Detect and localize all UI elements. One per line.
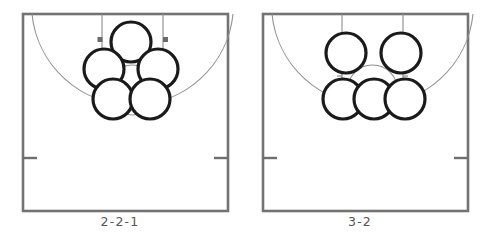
player-marker[interactable]: [381, 33, 421, 73]
court-diagram-left: [0, 0, 240, 215]
player-marker[interactable]: [93, 79, 133, 119]
figure-canvas: 2-2-1: [0, 0, 480, 248]
player-marker[interactable]: [385, 79, 425, 119]
court-diagram-right: [240, 0, 480, 215]
player-marker[interactable]: [130, 79, 170, 119]
formation-panel-right: 3-2: [240, 0, 480, 248]
formation-label-right: 3-2: [240, 214, 480, 229]
lane-block-right-icon: [163, 37, 168, 42]
formation-panel-left: 2-2-1: [0, 0, 240, 248]
lane-block-left-icon: [98, 37, 103, 42]
formation-label-left: 2-2-1: [0, 214, 240, 229]
player-marker[interactable]: [326, 33, 366, 73]
